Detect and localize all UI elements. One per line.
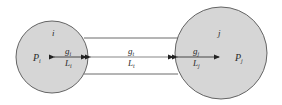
pore-j	[175, 7, 267, 99]
pore-throat-diagram: i Pi gi Li gt Lt j Pj gj Lj	[0, 0, 282, 105]
throat	[84, 38, 178, 74]
length-throat: Lt	[127, 58, 135, 69]
conductance-throat: gt	[128, 46, 135, 57]
pore-j-label: j	[217, 28, 221, 38]
